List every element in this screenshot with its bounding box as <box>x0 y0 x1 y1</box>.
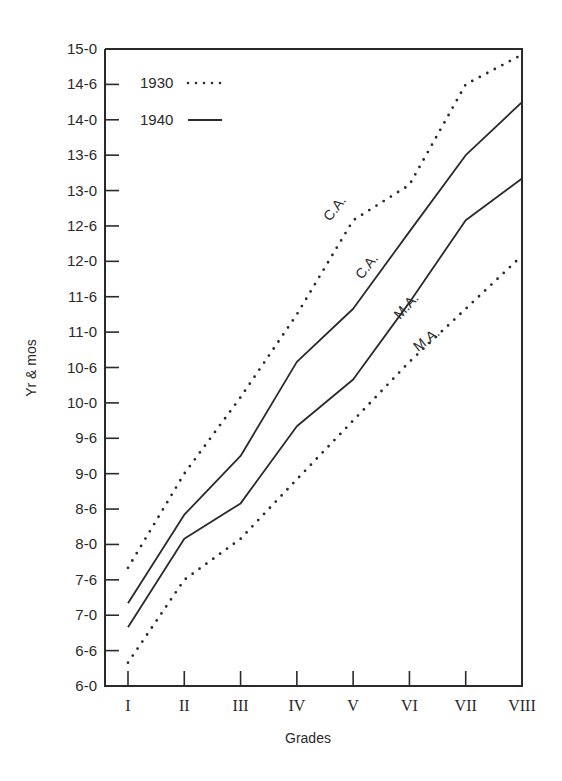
x-tick-label: I <box>125 697 130 714</box>
chart-axes <box>105 49 522 686</box>
y-axis-ticks: 6-06-67-07-68-08-69-09-610-010-611-011-6… <box>67 40 119 694</box>
y-tick-label: 9-6 <box>75 429 97 446</box>
chart-series <box>128 55 522 663</box>
x-axis-title: Grades <box>285 730 331 746</box>
curve-label: M.A. <box>390 290 421 322</box>
y-tick-label: 14-6 <box>67 75 97 92</box>
legend-label-1940: 1940 <box>140 111 173 128</box>
y-tick-label: 11-6 <box>68 288 97 305</box>
line-chart: 6-06-67-07-68-08-69-09-610-010-611-011-6… <box>0 0 562 781</box>
x-tick-label: II <box>179 697 190 714</box>
y-tick-label: 9-0 <box>75 465 97 482</box>
y-tick-label: 12-0 <box>67 252 97 269</box>
y-tick-label: 10-0 <box>67 394 97 411</box>
x-tick-label: III <box>233 697 249 714</box>
x-tick-label: VIII <box>508 697 536 714</box>
legend-label-1930: 1930 <box>140 74 173 91</box>
series-1940-c-a- <box>128 102 522 603</box>
y-tick-label: 8-0 <box>75 535 97 552</box>
x-tick-label: IV <box>288 697 305 714</box>
y-tick-label: 6-0 <box>75 677 97 694</box>
x-tick-label: V <box>347 697 359 714</box>
series-1930-c-a- <box>128 55 522 568</box>
y-tick-label: 12-6 <box>67 217 97 234</box>
curve-label: M.A. <box>410 324 443 354</box>
y-tick-label: 8-6 <box>75 500 97 517</box>
y-tick-label: 7-0 <box>75 606 97 623</box>
y-tick-label: 11-0 <box>68 323 97 340</box>
y-tick-label: 13-0 <box>67 182 97 199</box>
chart-legend: 1930 1940 <box>140 74 228 128</box>
y-tick-label: 15-0 <box>67 40 97 57</box>
x-tick-label: VII <box>455 697 477 714</box>
y-tick-label: 13-6 <box>67 146 97 163</box>
y-tick-label: 14-0 <box>67 111 97 128</box>
curve-annotations: C.A.C.A.M.A.M.A. <box>320 193 443 355</box>
x-tick-label: VI <box>401 697 418 714</box>
y-tick-label: 7-6 <box>75 571 97 588</box>
y-axis-title: Yr & mos <box>23 339 39 397</box>
curve-label: C.A. <box>320 193 349 224</box>
y-tick-label: 10-6 <box>67 359 97 376</box>
plot-frame <box>105 49 522 686</box>
y-tick-label: 6-6 <box>75 642 97 659</box>
series-1930-m-a- <box>128 256 522 663</box>
series-1940-m-a- <box>128 179 522 628</box>
x-axis-ticks: IIIIIIIVVVIVIIVIII <box>125 671 535 714</box>
